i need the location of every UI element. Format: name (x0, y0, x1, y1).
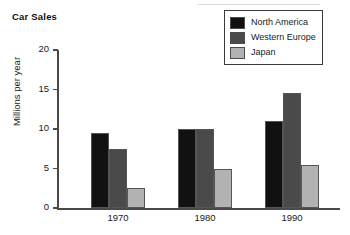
bar-1980-north-america (178, 129, 196, 208)
bar-chart: Car Sales North America Western Europe J… (0, 0, 350, 235)
y-axis-tick-label: 20 (38, 43, 49, 54)
bar-1980-japan (214, 169, 232, 209)
legend-swatch-western-europe (230, 32, 245, 44)
bar-1990-north-america (265, 121, 283, 208)
y-axis-label: Millions per year (11, 37, 22, 147)
x-axis-tick-label: 1990 (281, 212, 302, 223)
legend-item-western-europe: Western Europe (230, 30, 316, 45)
bar-1970-north-america (91, 133, 109, 208)
bar-1970-japan (127, 188, 145, 208)
legend-item-north-america: North America (230, 15, 316, 30)
y-axis-tick-label: 15 (38, 83, 49, 94)
y-axis-tick-label: 0 (44, 201, 49, 212)
x-axis-tick-label: 1980 (194, 212, 215, 223)
legend-swatch-north-america (230, 17, 245, 29)
y-axis-tick: 0 (53, 207, 58, 208)
page-title: Car Sales (12, 11, 57, 22)
plot-area: 05101520197019801990 (57, 50, 340, 208)
y-axis-tick: 5 (53, 168, 58, 169)
y-axis-tick: 20 (53, 49, 58, 50)
legend-label-western-europe: Western Europe (251, 33, 316, 42)
y-axis-tick-label: 10 (38, 122, 49, 133)
bar-1970-western-europe (109, 149, 127, 208)
y-axis-tick-label: 5 (44, 162, 49, 173)
x-axis-line (57, 208, 340, 210)
bar-1990-japan (301, 165, 319, 208)
scan-artifact (198, 4, 320, 5)
x-axis-tick-label: 1970 (107, 212, 128, 223)
legend-label-north-america: North America (251, 18, 308, 27)
y-axis-tick: 15 (53, 89, 58, 90)
bar-1980-western-europe (196, 129, 214, 208)
y-axis-tick: 10 (53, 128, 58, 129)
bar-1990-western-europe (283, 93, 301, 208)
